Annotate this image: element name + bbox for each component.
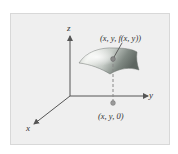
surface-patch [79, 48, 139, 74]
surface-point-label: (x, y, f(x, y)) [100, 34, 141, 43]
ground-point-label: (x, y, 0) [98, 112, 124, 121]
surface-point [111, 57, 116, 62]
y-axis-label: y [149, 91, 153, 100]
axes [34, 36, 148, 124]
ground-point [111, 101, 116, 106]
x-axis [34, 96, 70, 124]
x-axis-label: x [26, 124, 30, 133]
z-axis-label: z [67, 24, 71, 33]
